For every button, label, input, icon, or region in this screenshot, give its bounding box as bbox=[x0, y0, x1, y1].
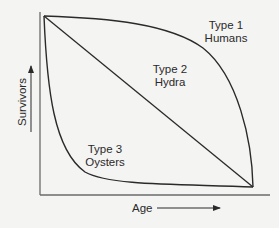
label-type1-title: Type 1 bbox=[196, 19, 256, 32]
x-axis-label: Age bbox=[132, 202, 152, 215]
label-type1-humans: Type 1 Humans bbox=[196, 19, 256, 45]
label-type2-hydra: Type 2 Hydra bbox=[140, 63, 200, 89]
survivorship-chart: Type 1 Humans Type 2 Hydra Type 3 Oyster… bbox=[0, 0, 279, 228]
label-type2-organism: Hydra bbox=[140, 76, 200, 89]
label-type3-title: Type 3 bbox=[75, 143, 135, 156]
label-type3-organism: Oysters bbox=[75, 156, 135, 169]
label-type1-organism: Humans bbox=[196, 32, 256, 45]
label-type2-title: Type 2 bbox=[140, 63, 200, 76]
y-axis-label: Survivors bbox=[16, 80, 29, 126]
label-type3-oysters: Type 3 Oysters bbox=[75, 143, 135, 169]
